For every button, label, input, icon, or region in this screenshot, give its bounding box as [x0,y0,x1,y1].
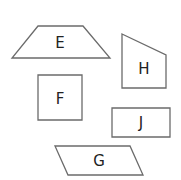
quadrilaterals-diagram: E H F J G [0,0,181,180]
shape-f: F [38,75,82,120]
shape-j: J [112,108,170,137]
shape-e: E [12,26,110,58]
label-f: F [56,90,65,108]
label-j: J [138,114,143,132]
shape-h: H [122,34,166,88]
label-g: G [93,152,105,170]
shape-g: G [55,146,143,175]
label-h: H [138,60,149,78]
label-e: E [55,34,64,52]
